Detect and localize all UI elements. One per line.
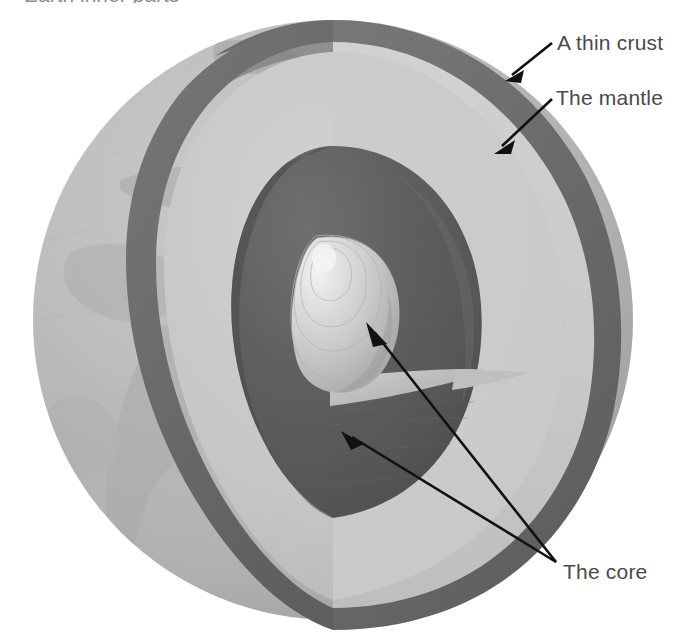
label-a-thin-crust: A thin crust xyxy=(557,31,663,55)
earth-cutaway-figure: Earth inner parts xyxy=(0,0,679,637)
label-the-mantle: The mantle xyxy=(556,86,663,110)
crust-pointer-arrow xyxy=(505,43,552,83)
inner-core-highlight xyxy=(312,244,336,272)
label-the-core: The core xyxy=(563,560,647,584)
